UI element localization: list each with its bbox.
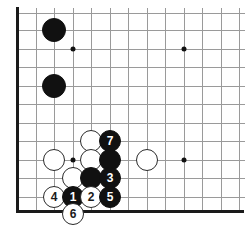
- stone-move-number: 5: [107, 191, 113, 203]
- board-stones: 7341256: [0, 0, 249, 229]
- black-stone-upper-a: [42, 18, 66, 42]
- stone-move-number: 3: [107, 172, 113, 184]
- white-stone-right: [136, 149, 158, 171]
- white-move-6: 6: [62, 203, 84, 225]
- stone-move-number: 4: [51, 191, 57, 203]
- stone-move-number: 7: [107, 135, 113, 147]
- black-move-5: 5: [99, 186, 121, 208]
- white-stone-left: [43, 149, 65, 171]
- stone-move-number: 6: [70, 208, 76, 220]
- stone-move-number: 1: [70, 191, 76, 203]
- stone-move-number: 2: [88, 191, 94, 203]
- go-board-diagram: 7341256: [0, 0, 249, 229]
- black-stone-upper-b: [42, 74, 66, 98]
